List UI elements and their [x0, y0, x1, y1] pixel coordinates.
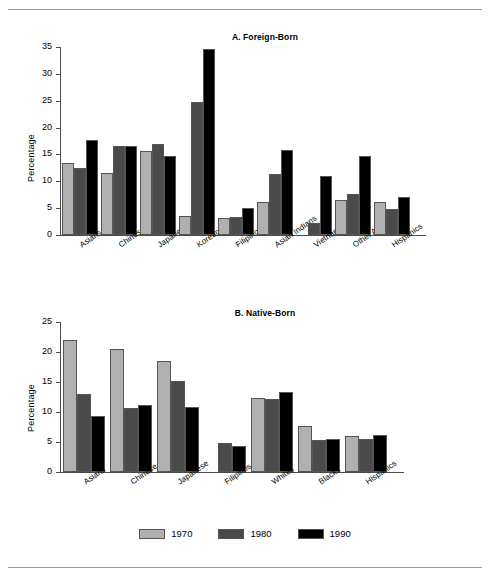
y-axis-tick-label: 35 — [30, 41, 52, 51]
bar — [124, 408, 138, 472]
y-axis-tick — [56, 47, 60, 48]
y-axis-tick-label: 20 — [30, 122, 52, 132]
bar — [218, 443, 232, 472]
y-axis-tick — [56, 322, 60, 323]
y-axis-tick-label: 10 — [30, 406, 52, 416]
y-axis-tick — [56, 74, 60, 75]
y-axis-tick-label: 5 — [30, 202, 52, 212]
y-axis-tick-label: 25 — [30, 95, 52, 105]
bar — [298, 426, 312, 472]
bar — [185, 407, 199, 472]
chart-panel-foreign-born: A. Foreign-Born Percentage 0510152025303… — [0, 22, 490, 282]
bar — [203, 49, 215, 235]
chart-b-plot-area: 0510152025AsiansChineseJapaneseFilipinos… — [60, 322, 390, 472]
bar — [171, 381, 185, 472]
bar — [335, 200, 347, 235]
bar — [164, 156, 176, 235]
bar — [138, 405, 152, 472]
y-axis-tick — [56, 235, 60, 236]
bar — [320, 176, 332, 235]
bar — [312, 440, 326, 472]
bar — [281, 150, 293, 235]
bar — [74, 168, 86, 235]
bar — [345, 436, 359, 472]
legend-swatch — [298, 529, 324, 539]
bar — [347, 194, 359, 235]
bar — [86, 140, 98, 235]
bar — [110, 349, 124, 472]
bar — [269, 174, 281, 235]
bar — [359, 156, 371, 235]
bar — [218, 218, 230, 235]
legend-item: 1970 — [139, 528, 192, 539]
chart-a-plot-area: 05101520253035AsiansChineseJapaneseKorea… — [60, 47, 412, 235]
y-axis-tick — [56, 128, 60, 129]
bar — [152, 144, 164, 235]
legend-label: 1980 — [250, 528, 271, 539]
bar — [113, 146, 125, 235]
bar — [251, 398, 265, 472]
bar — [257, 202, 269, 235]
y-axis-tick — [56, 101, 60, 102]
chart-b-title: B. Native-Born — [0, 308, 490, 318]
bar — [179, 216, 191, 235]
bar — [191, 102, 203, 235]
bar — [279, 392, 293, 472]
y-axis-tick-label: 10 — [30, 175, 52, 185]
bar — [140, 151, 152, 235]
legend-swatch — [139, 529, 165, 539]
y-axis-tick — [56, 472, 60, 473]
y-axis-tick — [56, 412, 60, 413]
chart-panel-native-born: B. Native-Born Percentage 0510152025Asia… — [0, 300, 490, 515]
bar — [374, 202, 386, 235]
y-axis-tick-label: 15 — [30, 376, 52, 386]
y-axis-tick — [56, 352, 60, 353]
y-axis-tick-label: 20 — [30, 346, 52, 356]
y-axis-tick-label: 30 — [30, 68, 52, 78]
y-axis-tick-label: 5 — [30, 436, 52, 446]
legend-label: 1970 — [171, 528, 192, 539]
bar — [101, 173, 113, 235]
y-axis-tick — [56, 208, 60, 209]
bar — [230, 217, 242, 235]
legend-swatch — [218, 529, 244, 539]
bar — [386, 209, 398, 235]
legend-item: 1980 — [218, 528, 271, 539]
y-axis-tick-label: 25 — [30, 316, 52, 326]
bar — [91, 416, 105, 472]
bar — [77, 394, 91, 472]
legend-item: 1990 — [298, 528, 351, 539]
y-axis-tick-label: 0 — [30, 466, 52, 476]
figure-root: A. Foreign-Born Percentage 0510152025303… — [0, 0, 490, 579]
y-axis-tick — [56, 181, 60, 182]
chart-a-title: A. Foreign-Born — [0, 32, 490, 42]
bottom-divider-rule — [8, 567, 482, 568]
figure-legend: 197019801990 — [0, 528, 490, 539]
y-axis-tick — [56, 154, 60, 155]
bar — [265, 399, 279, 472]
y-axis-tick — [56, 442, 60, 443]
y-axis-tick-label: 0 — [30, 229, 52, 239]
bar — [63, 340, 77, 472]
y-axis-line — [60, 322, 61, 472]
top-divider-rule — [8, 9, 482, 10]
bar — [359, 439, 373, 472]
bar — [308, 223, 320, 235]
y-axis-tick — [56, 382, 60, 383]
legend-label: 1990 — [330, 528, 351, 539]
bar — [157, 361, 171, 472]
bar — [62, 163, 74, 235]
bar — [125, 146, 137, 235]
y-axis-tick-label: 15 — [30, 148, 52, 158]
